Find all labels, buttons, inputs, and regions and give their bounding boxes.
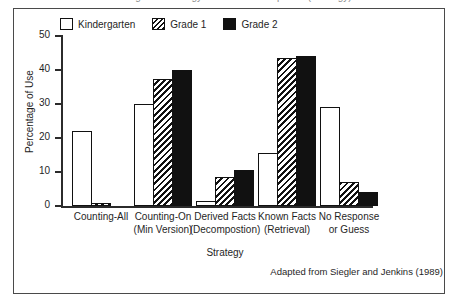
bar-kindergarten[interactable] xyxy=(320,107,340,206)
bar-group xyxy=(196,36,258,206)
bar-kindergarten[interactable] xyxy=(196,201,216,206)
bar-group xyxy=(320,36,382,206)
white-outline-swatch-icon xyxy=(60,18,73,30)
bar-grade-2[interactable] xyxy=(172,70,192,206)
bar-grade-2[interactable] xyxy=(296,56,316,206)
bar-grade-1[interactable] xyxy=(91,203,111,206)
y-axis-tick-label: 0 xyxy=(20,200,50,210)
figure-caption: Adapted from Siegler and Jenkins (1989) xyxy=(270,266,443,277)
y-axis-tick xyxy=(55,205,62,207)
x-axis-title: Strategy xyxy=(150,247,300,258)
bar-kindergarten[interactable] xyxy=(134,104,154,206)
diagonal-hatch-swatch-icon xyxy=(152,18,165,30)
legend-label-grade-1: Grade 1 xyxy=(170,19,206,30)
bar-kindergarten[interactable] xyxy=(72,131,92,206)
figure-title-cutoff: Changes in Strategy Use with Development… xyxy=(0,0,463,3)
bar-kindergarten[interactable] xyxy=(258,153,278,206)
x-axis-category-label: No Responseor Guess xyxy=(301,210,397,236)
y-axis-tick xyxy=(55,35,62,37)
legend-label-grade-2: Grade 2 xyxy=(241,19,277,30)
bar-group xyxy=(134,36,196,206)
legend-item-grade-2[interactable]: Grade 2 xyxy=(223,18,277,30)
legend-item-grade-1[interactable]: Grade 1 xyxy=(152,18,206,30)
bar-grade-2[interactable] xyxy=(358,192,378,206)
y-axis-tick xyxy=(55,69,62,71)
bar-group xyxy=(72,36,134,206)
bar-grade-2[interactable] xyxy=(234,170,254,206)
legend-label-kindergarten: Kindergarten xyxy=(78,19,135,30)
y-axis-tick-label: 50 xyxy=(20,30,50,40)
x-axis-line xyxy=(61,206,373,208)
y-axis-tick xyxy=(55,137,62,139)
solid-black-swatch-icon xyxy=(223,18,236,30)
bar-group xyxy=(258,36,320,206)
plot-area xyxy=(62,36,432,206)
x-axis-category-label-line: No Response xyxy=(301,210,397,223)
chart-legend: Kindergarten Grade 1 Grade 2 xyxy=(60,18,278,30)
bar-grade-1[interactable] xyxy=(339,182,359,206)
bar-grade-1[interactable] xyxy=(215,177,235,206)
legend-item-kindergarten[interactable]: Kindergarten xyxy=(60,18,135,30)
x-axis-category-label-line: or Guess xyxy=(301,223,397,236)
y-axis-tick xyxy=(55,103,62,105)
bar-grade-1[interactable] xyxy=(153,79,173,207)
y-axis-title: Percentage of Use xyxy=(24,47,35,177)
bar-grade-1[interactable] xyxy=(277,58,297,206)
y-axis-tick xyxy=(55,171,62,173)
